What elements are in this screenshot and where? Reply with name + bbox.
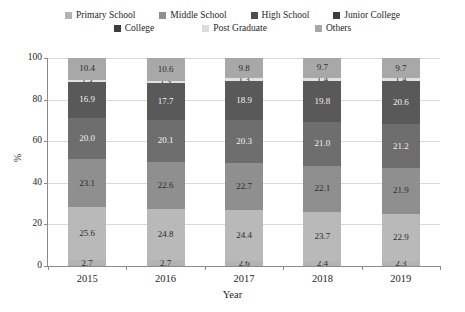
bar-segment-value-label: 9.7: [395, 64, 406, 73]
y-axis-tick-label: 0: [37, 261, 42, 271]
y-axis-tick-label: 20: [33, 220, 43, 230]
bar-segment-value-label: 21.2: [393, 142, 409, 151]
y-axis-tick-mark: [44, 224, 48, 225]
bar-segment-value-label: 2.7: [160, 260, 171, 266]
legend-item-label: Primary School: [76, 10, 135, 21]
y-axis-tick-label: 100: [28, 53, 42, 63]
bar-segment-value-label: 25.6: [79, 229, 95, 238]
bar-segment-college[interactable]: 18.9: [225, 81, 263, 120]
legend-row: CollegePost GraduateOthers: [114, 23, 351, 34]
bar-segment-value-label: 10.4: [79, 64, 95, 73]
legend-item-primary-school[interactable]: Primary School: [65, 10, 135, 21]
bar-2017[interactable]: 2.624.422.720.318.91.39.8: [225, 58, 263, 266]
bar-segment-junior-college[interactable]: 20.3: [225, 120, 263, 162]
y-axis-tick-mark: [44, 100, 48, 101]
bar-segment-value-label: 21.9: [393, 186, 409, 195]
x-axis-tick-mark: [283, 266, 284, 270]
bar-segment-primary-school[interactable]: 2.3: [382, 261, 420, 266]
legend-swatch-icon: [333, 12, 340, 19]
bar-segment-college[interactable]: 17.7: [147, 83, 185, 120]
legend-swatch-icon: [315, 25, 322, 32]
x-axis-tick-mark: [362, 266, 363, 270]
bar-segment-high-school[interactable]: 22.7: [225, 163, 263, 210]
bar-segment-others[interactable]: 9.7: [303, 58, 341, 78]
legend-swatch-icon: [159, 12, 166, 19]
x-axis-tick-mark: [440, 266, 441, 270]
bar-segment-college[interactable]: 19.8: [303, 81, 341, 122]
legend-item-label: College: [125, 23, 155, 34]
bar-segment-middle-school[interactable]: 25.6: [68, 207, 106, 260]
bar-segment-college[interactable]: 20.6: [382, 81, 420, 124]
bar-segment-high-school[interactable]: 21.9: [382, 168, 420, 214]
legend-swatch-icon: [251, 12, 258, 19]
bar-segment-value-label: 22.9: [393, 233, 409, 242]
x-axis-tick-label-2017: 2017: [214, 273, 274, 284]
legend-row: Primary SchoolMiddle SchoolHigh SchoolJu…: [65, 10, 400, 21]
bar-segment-others[interactable]: 10.6: [147, 58, 185, 80]
bar-segment-high-school[interactable]: 22.1: [303, 166, 341, 212]
bar-segment-value-label: 19.8: [315, 97, 331, 106]
bar-segment-value-label: 20.0: [79, 134, 95, 143]
bar-segment-value-label: 9.7: [317, 63, 328, 72]
bar-2019[interactable]: 2.322.921.921.220.61.49.7: [382, 58, 420, 266]
bar-segment-primary-school[interactable]: 2.7: [68, 260, 106, 266]
bar-segment-college[interactable]: 16.9: [68, 82, 106, 117]
bar-segment-value-label: 24.4: [236, 231, 252, 240]
legend-item-post-graduate[interactable]: Post Graduate: [202, 23, 267, 34]
y-axis-label: %: [12, 154, 23, 162]
bar-segment-junior-college[interactable]: 20.1: [147, 120, 185, 162]
bar-segment-middle-school[interactable]: 22.9: [382, 214, 420, 262]
bar-2015[interactable]: 2.725.623.120.016.91.310.4: [68, 58, 106, 266]
bar-segment-value-label: 21.0: [315, 139, 331, 148]
bar-2016[interactable]: 2.724.822.620.117.71.310.6: [147, 58, 185, 266]
bar-segment-middle-school[interactable]: 23.7: [303, 212, 341, 261]
y-axis-tick-mark: [44, 58, 48, 59]
bar-segment-value-label: 9.8: [238, 64, 249, 73]
y-axis-tick-label: 60: [33, 136, 43, 146]
legend-item-others[interactable]: Others: [315, 23, 351, 34]
bar-segment-value-label: 24.8: [158, 230, 174, 239]
bar-segment-value-label: 22.6: [158, 181, 174, 190]
x-axis-tick-label-2016: 2016: [136, 273, 196, 284]
bar-segment-value-label: 2.4: [317, 261, 328, 266]
chart-legend: Primary SchoolMiddle SchoolHigh SchoolJu…: [0, 10, 465, 34]
bar-segment-value-label: 10.6: [158, 65, 174, 74]
bar-segment-others[interactable]: 9.8: [225, 58, 263, 78]
x-axis-tick-mark: [205, 266, 206, 270]
y-axis-tick-mark: [44, 183, 48, 184]
x-axis-tick-mark: [48, 266, 49, 270]
legend-item-high-school[interactable]: High School: [251, 10, 310, 21]
bar-segment-value-label: 22.1: [315, 184, 331, 193]
x-axis-label: Year: [0, 289, 465, 300]
legend-item-label: High School: [262, 10, 310, 21]
bar-segment-value-label: 2.3: [395, 261, 406, 266]
legend-item-middle-school[interactable]: Middle School: [159, 10, 226, 21]
bar-segment-middle-school[interactable]: 24.4: [225, 210, 263, 261]
legend-swatch-icon: [65, 12, 72, 19]
bar-segment-value-label: 20.6: [393, 98, 409, 107]
bar-segment-primary-school[interactable]: 2.7: [147, 260, 185, 266]
bar-segment-value-label: 2.6: [238, 261, 249, 266]
bar-segment-high-school[interactable]: 22.6: [147, 162, 185, 209]
legend-swatch-icon: [202, 25, 209, 32]
bar-segment-primary-school[interactable]: 2.6: [225, 261, 263, 266]
bar-segment-value-label: 20.3: [236, 137, 252, 146]
bar-segment-others[interactable]: 10.4: [68, 58, 106, 80]
bar-segment-high-school[interactable]: 23.1: [68, 159, 106, 207]
bar-segment-value-label: 23.7: [315, 232, 331, 241]
bar-segment-middle-school[interactable]: 24.8: [147, 209, 185, 261]
x-axis-tick-label-2019: 2019: [371, 273, 431, 284]
bar-segment-value-label: 22.7: [236, 182, 252, 191]
bar-segment-junior-college[interactable]: 20.0: [68, 118, 106, 160]
bar-segment-value-label: 16.9: [79, 95, 95, 104]
legend-item-college[interactable]: College: [114, 23, 155, 34]
bar-segment-junior-college[interactable]: 21.2: [382, 124, 420, 168]
legend-item-junior-college[interactable]: Junior College: [333, 10, 400, 21]
bar-2018[interactable]: 2.423.722.121.019.81.49.7: [303, 58, 341, 266]
plot-area: 0204060801002.725.623.120.016.91.310.420…: [47, 58, 440, 267]
bar-segment-value-label: 2.7: [82, 260, 93, 266]
bar-segment-others[interactable]: 9.7: [382, 58, 420, 78]
bar-segment-primary-school[interactable]: 2.4: [303, 261, 341, 266]
bar-segment-junior-college[interactable]: 21.0: [303, 122, 341, 166]
legend-swatch-icon: [114, 25, 121, 32]
